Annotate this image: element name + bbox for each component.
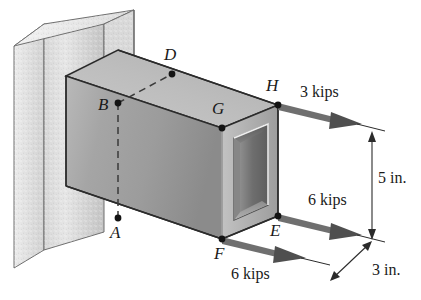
point-label-A: A	[110, 224, 120, 241]
force-label-6kips-E: 6 kips	[308, 192, 347, 208]
mechanics-figure: A B D E F G H 3 kips 6 kips 6 kips 5 in.…	[0, 0, 421, 300]
point-label-B: B	[98, 96, 108, 113]
point-label-E: E	[270, 222, 280, 239]
force-label-6kips-F: 6 kips	[231, 266, 270, 282]
point-markers-layer	[0, 0, 421, 300]
point-marker-G	[219, 125, 226, 132]
dimension-label-height: 5 in.	[378, 170, 406, 186]
point-marker-F	[219, 236, 226, 243]
point-marker-H	[275, 102, 282, 109]
dimension-label-depth: 3 in.	[372, 262, 400, 278]
point-label-H: H	[266, 77, 278, 94]
point-label-F: F	[214, 245, 224, 262]
point-marker-B	[115, 100, 122, 107]
point-marker-D	[169, 71, 176, 78]
force-label-3kips: 3 kips	[300, 84, 339, 100]
point-label-G: G	[212, 100, 224, 117]
point-marker-A	[115, 215, 122, 222]
point-label-D: D	[164, 46, 176, 63]
point-marker-E	[275, 213, 282, 220]
